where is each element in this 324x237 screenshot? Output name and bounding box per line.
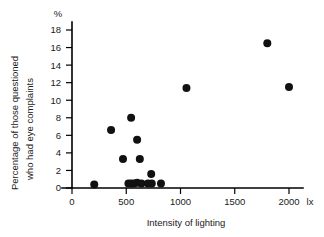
y-tick-label: 2 — [56, 165, 61, 176]
data-point — [157, 180, 165, 188]
data-point — [127, 114, 135, 122]
y-axis-unit-label: % — [54, 8, 63, 19]
x-axis-title: Intensity of lighting — [147, 217, 226, 228]
x-tick-label: 0 — [69, 196, 74, 207]
x-tick-label: 1500 — [224, 196, 245, 207]
y-axis-title-line2: who had eye complaints — [24, 78, 35, 181]
data-point — [263, 39, 271, 47]
y-tick-label: 10 — [50, 95, 61, 106]
y-tick-label: 8 — [56, 112, 61, 123]
y-tick-label: 18 — [50, 24, 61, 35]
data-point — [147, 170, 155, 178]
y-tick-marks — [66, 30, 72, 188]
data-point — [285, 83, 293, 91]
data-point — [107, 126, 115, 134]
y-tick-label: 4 — [56, 147, 61, 158]
y-tick-labels: 024681012141618 — [50, 24, 61, 193]
y-tick-label: 12 — [50, 77, 61, 88]
data-point — [90, 180, 98, 188]
y-tick-label: 6 — [56, 130, 61, 141]
x-axis-unit-label: lx — [307, 196, 314, 207]
x-tick-label: 1000 — [170, 196, 191, 207]
y-axis-title-line1: Percentage of those questioned — [9, 56, 20, 190]
x-axis-group: 0500100015002000 lx Intensity of lightin… — [62, 188, 314, 228]
scatter-plot-figure: 024681012141618 % 0500100015002000 lx In… — [0, 0, 324, 237]
data-point — [148, 180, 156, 188]
y-axis-group: 024681012141618 % — [50, 8, 72, 193]
y-axis-title-group: Percentage of those questioned who had e… — [9, 56, 35, 190]
x-tick-labels: 0500100015002000 — [69, 196, 299, 207]
y-tick-label: 14 — [50, 60, 61, 71]
data-point — [133, 136, 141, 144]
data-point — [136, 155, 144, 163]
y-tick-label: 16 — [50, 42, 61, 53]
data-point-series — [90, 39, 293, 188]
plot-canvas: 024681012141618 % 0500100015002000 lx In… — [0, 0, 324, 237]
x-tick-label: 500 — [118, 196, 134, 207]
y-tick-label: 0 — [56, 182, 61, 193]
data-point — [119, 155, 127, 163]
x-tick-label: 2000 — [278, 196, 299, 207]
data-point — [182, 84, 190, 92]
x-tick-marks — [72, 188, 289, 194]
